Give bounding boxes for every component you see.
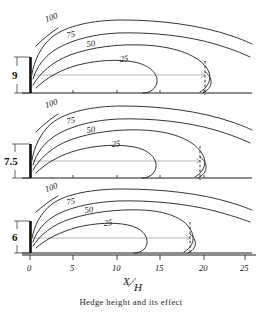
x-axis-tick-label-25: 25 <box>240 263 249 273</box>
x-axis-tick-label-15: 15 <box>155 263 164 273</box>
hedge-height-label-top: 9 <box>12 69 18 81</box>
contour-label-25-middle: 25 <box>111 138 120 149</box>
contour-100-leader-top <box>36 28 58 46</box>
contour-75-top <box>33 33 250 79</box>
hedge-height-label-bottom: 6 <box>12 231 18 243</box>
contour-label-75-bottom: 75 <box>66 196 76 207</box>
contour-75-bottom <box>33 201 250 242</box>
contour-label-50-bottom: 50 <box>84 204 95 215</box>
contour-label-100-top: 100 <box>44 10 60 24</box>
figure-caption: Hedge height and its effect <box>79 297 182 307</box>
panel-top: 9 100 75 50 25 <box>12 10 252 95</box>
x-axis-tick-label-0: 0 <box>27 263 32 273</box>
panel-middle: 7.5 100 75 50 25 <box>4 96 252 180</box>
contour-label-50-top: 50 <box>86 38 97 49</box>
contour-label-50-middle: 50 <box>86 124 97 135</box>
contour-100-leader-bottom <box>36 196 58 212</box>
x-axis-tick-label-5: 5 <box>70 263 74 273</box>
panel-bottom: 6 100 75 50 25 <box>12 180 252 255</box>
contour-label-100-bottom: 100 <box>44 180 60 194</box>
x-axis: 0 5 10 15 20 25 X H <box>22 255 256 293</box>
hedge-height-label-middle: 7.5 <box>4 155 18 167</box>
contour-50-middle <box>33 130 205 177</box>
contour-50-bottom <box>33 210 193 252</box>
x-axis-tick-label-20: 20 <box>199 263 208 273</box>
x-axis-title-denominator: H <box>133 281 143 293</box>
contour-label-25-bottom: 25 <box>103 217 112 228</box>
x-axis-tick-label-10: 10 <box>112 263 121 273</box>
contour-label-100-middle: 100 <box>44 96 60 110</box>
contour-25-middle <box>36 145 156 178</box>
contour-25-top <box>36 60 157 93</box>
contour-100-leader-middle <box>36 114 58 132</box>
hedge-effect-figure: 9 100 75 50 25 7.5 <box>0 0 262 312</box>
contour-100-middle <box>32 106 252 160</box>
contour-50-top <box>33 45 210 92</box>
contour-label-75-top: 75 <box>66 29 76 40</box>
contour-label-75-middle: 75 <box>66 115 76 126</box>
contour-100-top <box>32 20 252 74</box>
contour-label-25-top: 25 <box>119 53 128 64</box>
